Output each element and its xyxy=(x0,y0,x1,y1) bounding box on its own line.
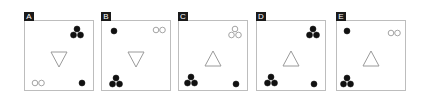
hollow-cluster-circle-icon xyxy=(229,32,235,38)
hollow-pair-circle-icon xyxy=(395,30,401,36)
filled-dot-icon xyxy=(344,28,350,34)
option-label: E xyxy=(336,12,346,21)
filled-cluster-dot-icon xyxy=(268,74,274,80)
filled-cluster-dot-icon xyxy=(188,74,194,80)
filled-dot-icon xyxy=(311,81,317,87)
filled-cluster-dot-icon xyxy=(117,81,123,87)
option-panel-d[interactable]: D xyxy=(256,20,326,91)
hollow-pair-circle-icon xyxy=(39,80,45,86)
hollow-pair-circle-icon xyxy=(32,80,38,86)
filled-cluster-dot-icon xyxy=(192,80,198,86)
hollow-cluster-circle-icon xyxy=(232,26,238,32)
triangle-up-icon xyxy=(283,51,299,66)
option-label: B xyxy=(101,12,111,21)
option-label: C xyxy=(178,12,188,21)
filled-cluster-dot-icon xyxy=(341,81,347,87)
hollow-pair-circle-icon xyxy=(388,30,394,36)
filled-cluster-dot-icon xyxy=(71,32,77,38)
option-label: D xyxy=(256,12,266,21)
hollow-cluster-circle-icon xyxy=(236,32,242,38)
filled-cluster-dot-icon xyxy=(307,32,313,38)
filled-cluster-dot-icon xyxy=(185,80,191,86)
filled-cluster-dot-icon xyxy=(78,32,84,38)
filled-cluster-dot-icon xyxy=(74,26,80,32)
triangle-down-icon xyxy=(128,52,144,67)
triangle-up-icon xyxy=(205,51,221,66)
hollow-pair-circle-icon xyxy=(153,27,159,33)
filled-dot-icon xyxy=(111,28,117,34)
option-panel-e[interactable]: E xyxy=(336,20,406,91)
filled-cluster-dot-icon xyxy=(265,80,271,86)
filled-cluster-dot-icon xyxy=(344,75,350,81)
triangle-down-icon xyxy=(51,52,67,67)
triangle-up-icon xyxy=(363,51,379,66)
hollow-pair-circle-icon xyxy=(160,27,166,33)
filled-dot-icon xyxy=(233,81,239,87)
option-panel-b[interactable]: B xyxy=(101,20,171,91)
option-panel-c[interactable]: C xyxy=(178,20,248,91)
filled-cluster-dot-icon xyxy=(348,81,354,87)
filled-cluster-dot-icon xyxy=(314,32,320,38)
filled-cluster-dot-icon xyxy=(272,80,278,86)
filled-cluster-dot-icon xyxy=(113,75,119,81)
option-label: A xyxy=(24,12,34,21)
filled-cluster-dot-icon xyxy=(110,81,116,87)
filled-cluster-dot-icon xyxy=(310,26,316,32)
filled-dot-icon xyxy=(79,80,85,86)
option-panel-a[interactable]: A xyxy=(24,20,94,91)
